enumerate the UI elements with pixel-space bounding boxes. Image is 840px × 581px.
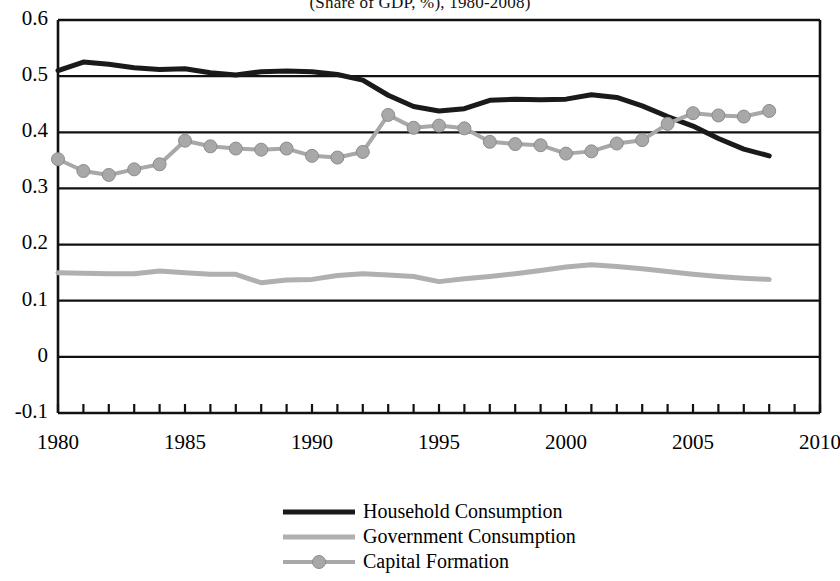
data-point-marker [610, 137, 623, 150]
plot-frame [58, 20, 820, 413]
x-axis-tick-label: 1990 [291, 430, 333, 454]
y-axis-tick-label: -0.1 [15, 399, 48, 423]
data-point-marker [636, 134, 649, 147]
y-axis-tick-label: 0.3 [22, 174, 48, 198]
gridlines [58, 76, 820, 357]
series-government-consumption [58, 265, 769, 283]
legend-item-capital-formation[interactable]: Capital Formation [283, 550, 509, 573]
data-point-marker [483, 135, 496, 148]
data-point-marker [534, 139, 547, 152]
data-point-marker [407, 121, 420, 134]
legend-label: Government Consumption [363, 525, 576, 548]
data-point-marker [153, 158, 166, 171]
y-axis-labels: 0.60.50.40.30.20.10-0.1 [15, 6, 49, 423]
data-point-marker [306, 149, 319, 162]
data-point-marker [52, 153, 65, 166]
data-point-marker [255, 143, 268, 156]
data-series-layer [52, 62, 776, 283]
legend-item-household-consumption[interactable]: Household Consumption [283, 500, 562, 523]
data-point-marker [509, 138, 522, 151]
x-axis-tick-label: 1985 [164, 430, 206, 454]
data-point-marker [560, 147, 573, 160]
x-axis-labels: 1980198519901995200020052010 [37, 430, 840, 454]
x-axis-tick-label: 2000 [545, 430, 587, 454]
data-point-marker [204, 140, 217, 153]
data-point-marker [128, 163, 141, 176]
data-point-marker [458, 122, 471, 135]
data-point-marker [382, 108, 395, 121]
data-point-marker [331, 151, 344, 164]
y-axis-tick-label: 0.5 [22, 62, 48, 86]
data-point-marker [229, 142, 242, 155]
x-axis-tick-label: 1980 [37, 430, 79, 454]
data-point-marker [687, 107, 700, 120]
y-axis-tick-label: 0.4 [22, 118, 49, 142]
data-point-marker [433, 119, 446, 132]
data-point-marker [77, 165, 90, 178]
chart-legend: Household ConsumptionGovernment Consumpt… [283, 500, 576, 573]
y-axis-tick-label: 0.2 [22, 230, 48, 254]
data-point-marker [763, 104, 776, 117]
series-line [58, 265, 769, 283]
data-point-marker [179, 134, 192, 147]
legend-label: Household Consumption [363, 500, 562, 523]
legend-label: Capital Formation [363, 550, 509, 573]
data-point-marker [661, 117, 674, 130]
x-axis-ticks [58, 404, 820, 413]
data-point-marker [585, 145, 598, 158]
data-point-marker [356, 145, 369, 158]
x-axis-tick-label: 1995 [418, 430, 460, 454]
y-axis-tick-label: 0.6 [22, 6, 48, 30]
line-chart: 0.60.50.40.30.20.10-0.1 1980198519901995… [0, 0, 840, 581]
y-axis-tick-label: 0.1 [22, 287, 48, 311]
data-point-marker [737, 110, 750, 123]
x-axis-tick-label: 2010 [799, 430, 840, 454]
y-axis-tick-label: 0 [38, 343, 49, 367]
legend-item-government-consumption[interactable]: Government Consumption [283, 525, 576, 548]
data-point-marker [280, 142, 293, 155]
chart-container: (Share of GDP, %), 1980-2008) 0.60.50.40… [0, 0, 840, 581]
legend-marker-icon [313, 556, 326, 569]
x-axis-tick-label: 2005 [672, 430, 714, 454]
data-point-marker [712, 109, 725, 122]
data-point-marker [102, 168, 115, 181]
